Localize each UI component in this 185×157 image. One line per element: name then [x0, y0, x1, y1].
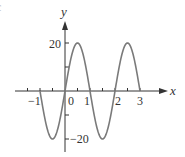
x-tick-label-3: 3 — [137, 94, 143, 108]
y-tick-label-neg20: −20 — [70, 132, 89, 146]
x-axis-arrow-icon — [159, 88, 168, 94]
x-tick-label-neg1: −1 — [28, 94, 41, 108]
sine-chart: c −1 0 1 2 3 x 20 −2 — [0, 0, 185, 157]
y-axis-label: y — [59, 4, 67, 19]
y-axis-arrow-icon — [62, 21, 68, 30]
y-tick-label-20: 20 — [49, 37, 61, 51]
corner-fragment-label: c — [0, 0, 1, 14]
x-axis: −1 0 1 2 3 x — [15, 83, 176, 108]
x-axis-label: x — [169, 83, 176, 98]
x-tick-label-0: 0 — [68, 94, 74, 108]
y-axis: 20 −20 y — [49, 4, 89, 152]
x-tick-label-1: 1 — [84, 94, 90, 108]
x-tick-label-2: 2 — [115, 94, 121, 108]
